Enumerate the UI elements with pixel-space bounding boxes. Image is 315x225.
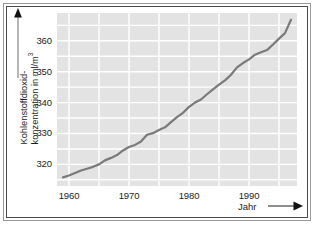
x-axis-label: Jahr xyxy=(238,201,256,212)
x-tick-label: 1990 xyxy=(232,190,266,201)
y-axis-arrow xyxy=(14,8,22,18)
y-tick-label: 320 xyxy=(26,158,52,169)
x-tick-label: 1980 xyxy=(172,190,206,201)
plot-background xyxy=(57,13,297,186)
y-tick-label: 360 xyxy=(26,35,52,46)
y-axis-label-exponent: 3 xyxy=(27,52,34,56)
y-tick-label: 350 xyxy=(26,66,52,77)
x-axis-arrow xyxy=(294,202,304,211)
y-tick-label: 330 xyxy=(26,127,52,138)
y-tick-label: 340 xyxy=(26,97,52,108)
chart-figure: Kohlenstoffdioxid- konzentration in ml/m… xyxy=(0,0,315,225)
x-tick-label: 1960 xyxy=(52,190,86,201)
x-tick-label: 1970 xyxy=(112,190,146,201)
chart-canvas xyxy=(0,0,315,225)
